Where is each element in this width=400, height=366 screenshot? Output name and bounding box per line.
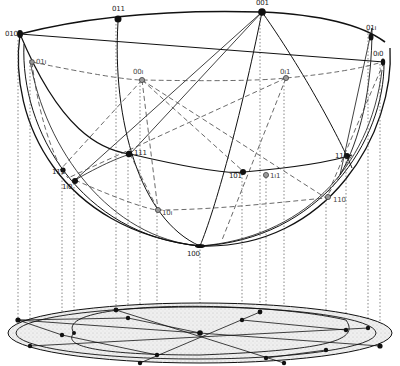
label-010-left: 010: [5, 30, 18, 38]
front-points: [17, 8, 385, 248]
back-points: [30, 60, 331, 213]
bowl-outline: [18, 34, 390, 246]
label-011-top: 011: [112, 5, 125, 13]
point-01b-left: [30, 60, 35, 65]
line-001-left2: [75, 12, 262, 180]
label-00b: 00ı: [133, 68, 144, 76]
label-010-right: 0ı0: [373, 50, 383, 58]
label-1b1: 1ı1: [270, 172, 280, 180]
point-0b1: [283, 75, 288, 80]
point-011-top: [115, 16, 122, 23]
rim-back-chord: [20, 34, 384, 62]
point-1b1: [263, 172, 268, 177]
projection-plane: [8, 303, 392, 365]
bowl-inner-2: [30, 60, 382, 246]
meridian-001a: [200, 12, 262, 246]
point-011-right: [369, 34, 374, 41]
label-1b0-left: 1ı0: [62, 183, 72, 191]
label-011-right: 01ı: [366, 24, 377, 32]
great-circle-111b: [75, 154, 130, 180]
line-001-left: [130, 12, 262, 154]
label-110: 110: [333, 196, 346, 204]
label-111-mid: 111: [134, 149, 147, 157]
point-00b: [139, 77, 144, 82]
point-1b0-left: [72, 178, 78, 184]
label-111-left: 111: [52, 168, 65, 176]
label-0b1: 0ı1: [280, 68, 290, 76]
point-10b: [155, 207, 160, 212]
meridian-001b: [262, 12, 352, 168]
point-100: [195, 244, 205, 248]
hidden-circles: [32, 62, 384, 240]
point-111-mid: [126, 151, 132, 157]
label-001-top: 001: [256, 0, 269, 7]
point-110: [325, 194, 330, 199]
point-010-left: [17, 30, 23, 38]
great-circle-111: [20, 34, 352, 172]
label-10b: 10ı: [162, 209, 173, 217]
stereographic-projection-diagram: 010 011 001 01ı 0ı0 01ı 00ı 0ı1 111 1ı0 …: [0, 0, 400, 366]
label-111-right: 111: [335, 152, 348, 160]
rim-front: [20, 11, 385, 42]
hemisphere: [18, 11, 390, 246]
label-101: 101: [229, 172, 242, 180]
label-100: 100: [187, 250, 200, 258]
point-010-right: [381, 59, 385, 66]
point-001-top: [258, 8, 266, 16]
label-01b-left: 01ı: [36, 58, 47, 66]
